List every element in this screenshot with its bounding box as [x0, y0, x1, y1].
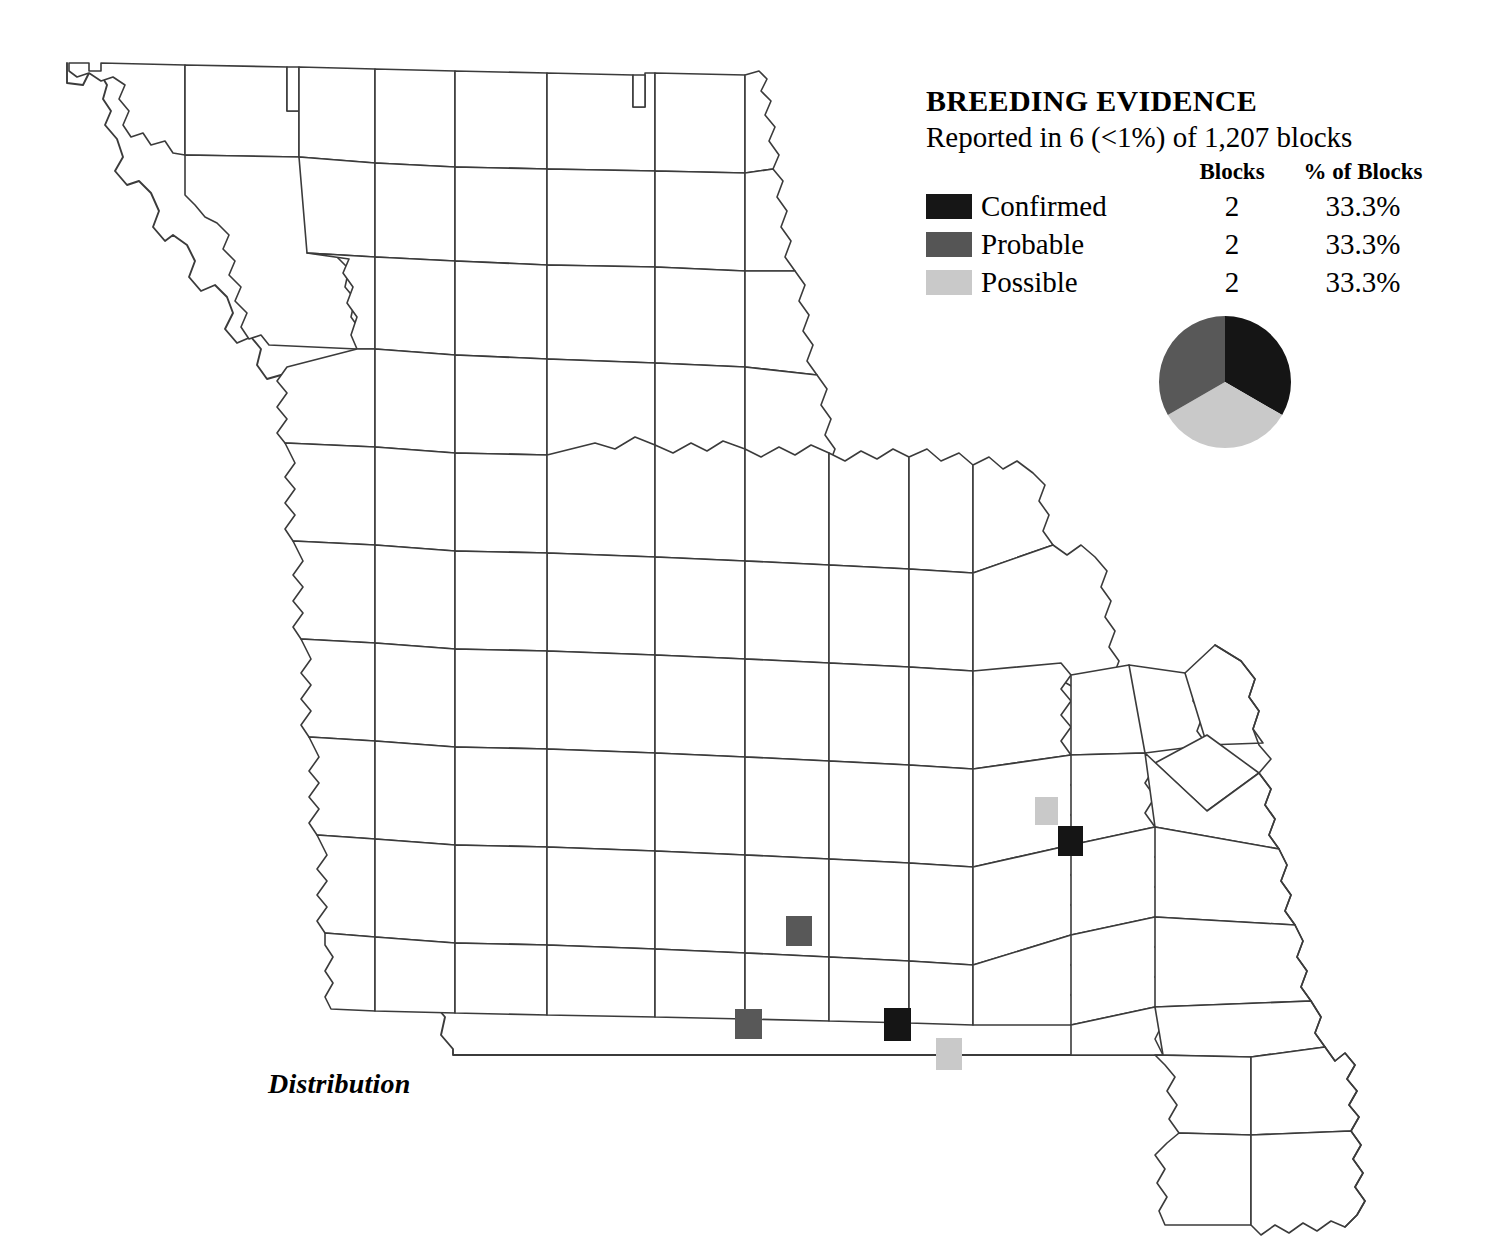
county	[745, 445, 829, 565]
county	[287, 67, 299, 111]
county	[455, 943, 547, 1015]
county	[745, 169, 795, 271]
legend-pct-value: 33.3%	[1280, 187, 1446, 225]
legend-label-cell: Confirmed	[926, 187, 1184, 225]
county	[1155, 1133, 1251, 1225]
legend-subtitle: Reported in 6 (<1%) of 1,207 blocks	[926, 121, 1446, 153]
county	[745, 659, 829, 761]
pie-svg	[1155, 312, 1295, 452]
county	[455, 71, 547, 169]
legend-title: BREEDING EVIDENCE	[926, 86, 1446, 116]
county	[829, 761, 909, 863]
county	[547, 169, 655, 267]
black-swatch-icon	[926, 194, 972, 219]
county	[547, 749, 655, 851]
legend-row-possible: Possible 2 33.3%	[926, 263, 1446, 301]
legend-pct-value: 33.3%	[1280, 263, 1446, 301]
county	[455, 167, 547, 265]
legend-header-pct: % of Blocks	[1280, 159, 1446, 187]
county	[547, 553, 655, 655]
block-marker-probable	[786, 916, 812, 946]
light-gray-swatch-icon	[926, 270, 972, 295]
county	[909, 765, 973, 867]
legend-panel: BREEDING EVIDENCE Reported in 6 (<1%) of…	[926, 86, 1446, 301]
county	[655, 655, 745, 757]
county	[455, 747, 547, 847]
block-marker-possible	[1035, 797, 1058, 825]
county	[325, 933, 375, 1011]
legend-blocks-value: 2	[1184, 225, 1280, 263]
county	[829, 565, 909, 667]
legend-table: Blocks % of Blocks Confirmed 2 33.3% Pro…	[926, 159, 1446, 301]
county	[547, 265, 655, 363]
legend-row-label: Confirmed	[981, 190, 1107, 222]
county	[299, 157, 375, 257]
figure-caption: Distribution	[268, 1068, 410, 1100]
county	[455, 453, 547, 553]
county	[829, 859, 909, 961]
county	[375, 643, 455, 747]
map-page: BREEDING EVIDENCE Reported in 6 (<1%) of…	[0, 0, 1507, 1255]
county	[909, 863, 973, 965]
county	[745, 561, 829, 663]
county	[547, 651, 655, 753]
county	[909, 449, 973, 573]
county	[455, 649, 547, 749]
county	[455, 551, 547, 651]
county	[909, 569, 973, 671]
county	[547, 437, 655, 557]
county	[1251, 1047, 1359, 1135]
county	[745, 71, 779, 173]
dark-gray-swatch-icon	[926, 232, 972, 257]
county	[1155, 1001, 1325, 1057]
legend-header-row: Blocks % of Blocks	[926, 159, 1446, 187]
legend-row-label: Possible	[981, 266, 1078, 298]
legend-header-spacer	[926, 159, 1184, 187]
county	[375, 447, 455, 551]
county	[375, 257, 455, 355]
legend-pct-value: 33.3%	[1280, 225, 1446, 263]
county	[655, 441, 745, 561]
legend-row-confirmed: Confirmed 2 33.3%	[926, 187, 1446, 225]
county	[375, 937, 455, 1013]
county	[655, 73, 745, 173]
county	[375, 163, 455, 261]
county	[299, 67, 375, 163]
legend-header-blocks: Blocks	[1184, 159, 1280, 187]
legend-label-cell: Possible	[926, 263, 1184, 301]
block-marker-probable	[735, 1009, 762, 1039]
county	[375, 349, 455, 453]
county	[455, 261, 547, 359]
county	[301, 639, 375, 741]
county	[655, 949, 745, 1019]
county	[317, 835, 375, 937]
county	[829, 663, 909, 765]
county	[745, 271, 817, 375]
county	[909, 961, 973, 1025]
legend-label-cell: Probable	[926, 225, 1184, 263]
county	[547, 847, 655, 949]
legend-blocks-value: 2	[1184, 263, 1280, 301]
block-marker-confirmed	[884, 1008, 911, 1041]
county	[185, 65, 299, 157]
county	[655, 753, 745, 855]
county	[455, 355, 547, 455]
county	[375, 741, 455, 845]
block-marker-confirmed	[1058, 826, 1083, 856]
county	[547, 945, 655, 1017]
county	[633, 75, 645, 107]
county	[655, 557, 745, 659]
block-marker-possible	[936, 1038, 962, 1070]
county	[309, 737, 375, 839]
county	[829, 449, 909, 569]
county	[973, 663, 1071, 769]
county	[375, 545, 455, 649]
county	[293, 541, 375, 643]
county	[375, 69, 455, 167]
county	[655, 171, 745, 271]
county	[1251, 1131, 1365, 1235]
county	[745, 757, 829, 859]
county	[1155, 917, 1311, 1007]
county	[909, 667, 973, 769]
county	[655, 851, 745, 953]
